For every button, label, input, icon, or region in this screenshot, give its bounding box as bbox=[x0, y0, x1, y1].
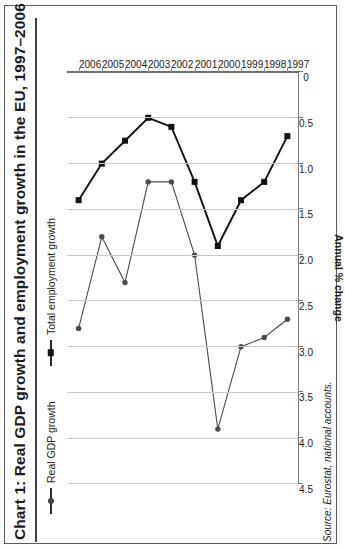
legend-label: Real GDP growth bbox=[45, 401, 57, 483]
data-point bbox=[262, 335, 267, 340]
value-tick-label: 2.5 bbox=[299, 301, 313, 312]
value-tick-label: 0 bbox=[303, 72, 309, 83]
gridline bbox=[67, 209, 299, 210]
title-divider bbox=[35, 18, 37, 542]
chart-figure: Chart 1: Real GDP growth and employment … bbox=[5, 11, 338, 550]
axis-title: Annual % change bbox=[333, 234, 345, 322]
category-tick-label: 2001 bbox=[195, 59, 217, 70]
series-line-total-employment-growth bbox=[79, 118, 288, 246]
figure-frame: Chart 1: Real GDP growth and employment … bbox=[4, 5, 337, 544]
value-tick-label: 1.5 bbox=[299, 209, 313, 220]
category-tick-label: 1999 bbox=[241, 59, 263, 70]
chart-title: Chart 1: Real GDP growth and employment … bbox=[11, 20, 29, 540]
legend-item-real-gdp-growth: Real GDP growth bbox=[45, 401, 57, 514]
value-tick-label: 4.0 bbox=[299, 438, 313, 449]
gridline bbox=[67, 484, 299, 485]
data-point bbox=[122, 280, 127, 285]
category-tick-label: 2005 bbox=[102, 59, 124, 70]
data-point bbox=[99, 234, 104, 239]
square-marker-icon bbox=[50, 340, 51, 366]
data-point bbox=[169, 179, 174, 184]
data-point bbox=[215, 243, 221, 249]
data-point bbox=[122, 138, 128, 144]
gridline bbox=[67, 163, 299, 164]
value-tick-label: 2.0 bbox=[299, 255, 313, 266]
data-point bbox=[285, 317, 290, 322]
data-point bbox=[76, 326, 81, 331]
value-tick-label: 1.0 bbox=[299, 164, 313, 175]
plot-area bbox=[67, 72, 299, 484]
data-point bbox=[192, 179, 198, 185]
category-tick-label: 2006 bbox=[79, 59, 101, 70]
category-tick-label: 2002 bbox=[171, 59, 193, 70]
value-tick-label: 4.5 bbox=[299, 484, 313, 495]
data-point bbox=[76, 197, 82, 203]
value-tick-label: 0.5 bbox=[299, 118, 313, 129]
gridline bbox=[67, 346, 299, 347]
data-point bbox=[284, 133, 290, 139]
value-tick-label: 3.5 bbox=[299, 392, 313, 403]
chart-legend: Real GDP growth Total employment growth bbox=[43, 54, 63, 514]
plot-baseline bbox=[298, 72, 299, 484]
circle-marker-icon bbox=[50, 488, 51, 514]
gridline bbox=[67, 255, 299, 256]
gridline bbox=[67, 117, 299, 118]
data-point bbox=[238, 197, 244, 203]
data-point bbox=[168, 124, 174, 130]
gridline bbox=[67, 392, 299, 393]
value-tick-label: 3.0 bbox=[299, 347, 313, 358]
category-tick-label: 1998 bbox=[264, 59, 286, 70]
data-point bbox=[215, 426, 220, 431]
category-tick-label: 2004 bbox=[125, 59, 147, 70]
gridline bbox=[67, 300, 299, 301]
category-tick-label: 1997 bbox=[287, 59, 309, 70]
gridline bbox=[67, 438, 299, 439]
category-tick-label: 2000 bbox=[218, 59, 240, 70]
chart-canvas bbox=[67, 72, 299, 484]
legend-label: Total employment growth bbox=[45, 218, 57, 335]
source-note: Source: Eurostat, national accounts. bbox=[322, 381, 333, 542]
data-point bbox=[146, 179, 151, 184]
data-point bbox=[261, 179, 267, 185]
legend-item-total-employment-growth: Total employment growth bbox=[45, 218, 57, 366]
category-tick-label: 2003 bbox=[148, 59, 170, 70]
